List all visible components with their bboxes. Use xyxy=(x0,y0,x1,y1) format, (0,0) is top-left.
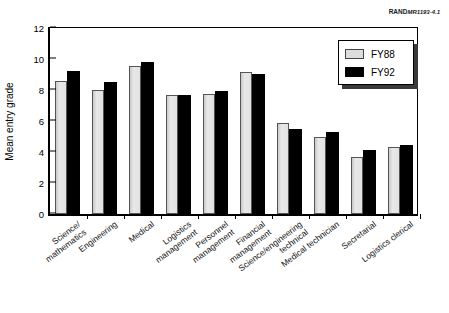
bar-fy88 xyxy=(166,95,178,214)
bar-group xyxy=(277,28,301,214)
y-tick-mark xyxy=(50,27,56,28)
y-tick-label: 8 xyxy=(39,85,50,96)
bar-fy88 xyxy=(277,123,289,214)
bar-fy92 xyxy=(326,132,338,214)
x-tick-mark xyxy=(420,214,421,219)
y-axis-title: Mean entry grade xyxy=(2,27,16,216)
bar-fy88 xyxy=(203,94,215,214)
x-axis-label-line: Medical xyxy=(126,219,155,245)
bar-fy92 xyxy=(400,145,412,214)
bar-fy92 xyxy=(215,91,227,214)
bar-fy88 xyxy=(55,81,67,214)
rand-logo-text: RAND xyxy=(389,8,408,15)
bar-group xyxy=(92,28,116,214)
legend-item-fy88: FY88 xyxy=(345,46,413,62)
legend-swatch-fy92 xyxy=(345,67,364,77)
bar-fy88 xyxy=(351,157,363,214)
y-tick-mark xyxy=(50,58,56,59)
bar-fy88 xyxy=(92,90,104,214)
bar-group xyxy=(240,28,264,214)
document-number: MR1193-4.1 xyxy=(407,9,440,15)
bar-fy88 xyxy=(314,137,326,215)
bar-group xyxy=(314,28,338,214)
x-axis-label: Science/mathematics xyxy=(37,219,88,264)
y-tick-label: 2 xyxy=(39,178,50,189)
y-axis-title-label: Mean entry grade xyxy=(4,82,15,160)
chart-legend: FY88 FY92 xyxy=(338,40,414,85)
legend-item-fy92: FY92 xyxy=(345,64,413,80)
bar-fy92 xyxy=(252,74,264,214)
y-tick-label: 12 xyxy=(33,23,50,34)
bar-group xyxy=(203,28,227,214)
y-tick-mark xyxy=(50,89,56,90)
bar-group xyxy=(129,28,153,214)
y-tick-mark xyxy=(50,120,56,121)
bar-fy88 xyxy=(388,147,400,214)
x-axis-labels: Science/mathematicsEngineeringMedicalLog… xyxy=(48,219,418,313)
bar-chart-figure: RANDMR1193-4.1 Mean entry grade 02468101… xyxy=(0,0,449,313)
y-tick-mark xyxy=(50,182,56,183)
legend-label-fy92: FY92 xyxy=(371,67,395,78)
y-tick-mark xyxy=(50,213,56,214)
rand-source-credit: RANDMR1193-4.1 xyxy=(389,8,440,15)
bar-fy92 xyxy=(289,129,301,214)
bar-fy88 xyxy=(240,72,252,214)
bar-fy92 xyxy=(141,62,153,214)
bar-fy92 xyxy=(363,150,375,214)
legend-swatch-fy88 xyxy=(345,49,364,59)
y-tick-label: 10 xyxy=(33,54,50,65)
bar-fy88 xyxy=(129,66,141,214)
bar-fy92 xyxy=(67,71,79,214)
y-tick-label: 0 xyxy=(39,209,50,220)
y-tick-label: 4 xyxy=(39,147,50,158)
bar-fy92 xyxy=(104,82,116,214)
y-tick-label: 6 xyxy=(39,116,50,127)
x-axis-label: Medical xyxy=(126,219,155,245)
legend-label-fy88: FY88 xyxy=(371,49,395,60)
bar-group xyxy=(55,28,79,214)
y-tick-mark xyxy=(50,151,56,152)
bar-group xyxy=(166,28,190,214)
bar-fy92 xyxy=(178,95,190,214)
